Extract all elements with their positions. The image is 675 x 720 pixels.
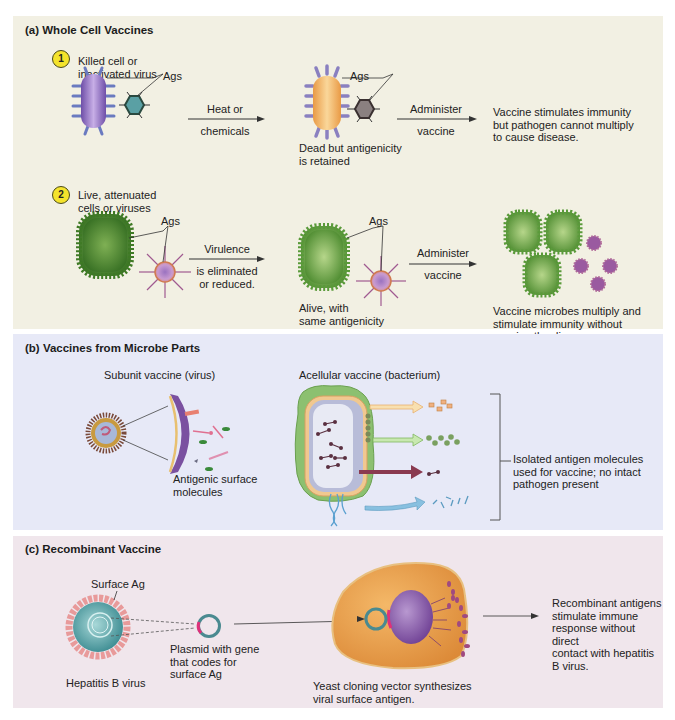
isolated-antigens-icon [426, 400, 468, 508]
administer-arrow2-bottom-label: vaccine [407, 269, 479, 282]
dead-cell-caption: Dead but antigenicity is retained [299, 142, 402, 167]
administer-arrow2-top-label: Administer [407, 247, 479, 260]
virulence-arrow-bottom-label: is eliminated or reduced. [189, 265, 265, 290]
step2-ags-left-label: Ags [161, 215, 180, 228]
hepatitis-b-virus-icon [69, 598, 127, 656]
plasmid-icon [198, 616, 219, 637]
acellular-bacterium-icon [295, 386, 374, 526]
step2-ags-middle-label: Ags [369, 215, 388, 228]
alive-cell-caption: Alive, with same antigenicity [299, 302, 384, 327]
whole-cell-illustrations [13, 16, 663, 329]
alive-cell-icon [301, 226, 347, 288]
administer-arrow1-top-label: Administer [397, 103, 475, 116]
panel-microbe-parts-vaccines: (b) Vaccines from Microbe Parts Subunit … [13, 334, 663, 530]
dead-cell-icon [306, 66, 348, 138]
subunit-virus-icon [88, 415, 124, 451]
yeast-cell-icon [332, 563, 470, 668]
virulence-arrow-top-label: Virulence [189, 243, 265, 256]
virus-envelope-section-icon [170, 394, 190, 474]
step1-ags-label: Ags [350, 70, 369, 83]
antigenic-surface-molecules-icon [185, 410, 230, 471]
antigenic-surface-caption: Antigenic surface molecules [173, 473, 257, 498]
panel-recombinant-vaccine: (c) Recombinant Vaccine Surface Ag Hepat… [13, 536, 663, 708]
multiplied-microbes-icon [506, 212, 617, 295]
inactivated-virus-icon [119, 92, 150, 118]
step-2-badge: 2 [52, 186, 70, 204]
live-virus-icon [139, 246, 191, 298]
recombinant-illustrations [13, 536, 663, 708]
isolated-antigen-caption: Isolated antigen molecules used for vacc… [513, 453, 643, 491]
administer-arrow1-bottom-label: vaccine [397, 125, 475, 138]
killed-result-text: Vaccine stimulates immunity but pathogen… [493, 106, 634, 144]
live-attenuated-label: Live, attenuated cells or viruses [78, 189, 156, 214]
dead-virus-icon [347, 96, 380, 122]
step1-ags-left-label: Ags [163, 70, 182, 83]
heat-arrow-top-label: Heat or [188, 103, 262, 116]
microbe-parts-illustrations [13, 334, 663, 530]
panel-whole-cell-vaccines: (a) Whole Cell Vaccines 1 Killed cell or… [13, 16, 663, 329]
heat-arrow-bottom-label: chemicals [188, 125, 262, 138]
live-cell-icon [79, 214, 131, 276]
